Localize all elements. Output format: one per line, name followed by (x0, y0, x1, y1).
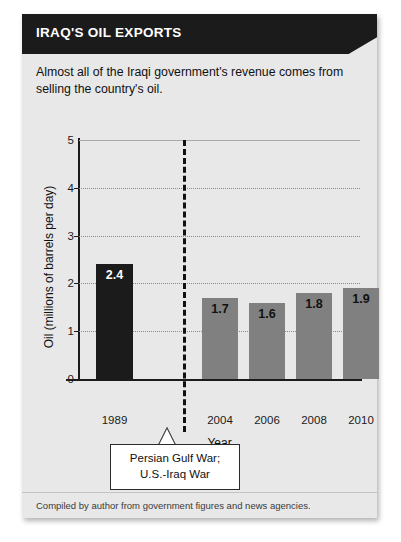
war-annotation-callout: Persian Gulf War; U.S.-Iraq War (110, 444, 240, 490)
x-axis-line (66, 379, 362, 381)
y-tick-label-4: 4 (52, 182, 74, 194)
page-title: IRAQ'S OIL EXPORTS (36, 25, 182, 40)
x-tick-label-2010: 2010 (331, 414, 391, 426)
gridline-4 (79, 188, 360, 189)
y-tick-label-2: 2 (52, 277, 74, 289)
bar-value-2004: 1.7 (202, 302, 238, 316)
x-tick-label-1989: 1989 (84, 414, 145, 426)
bar-2010: 1.9 (343, 288, 379, 379)
bar-2008: 1.8 (296, 293, 332, 379)
callout-line-2: U.S.-Iraq War (119, 467, 231, 483)
bar-chart: Oil (millions of barrels per day) 5 4 3 … (22, 110, 377, 440)
callout-pointer-icon (158, 427, 176, 445)
source-note: Compiled by author from government figur… (36, 500, 361, 511)
y-tick-label-5: 5 (52, 134, 74, 146)
bar-2006: 1.6 (249, 303, 285, 380)
bar-value-2008: 1.8 (296, 297, 332, 311)
gridline-3 (79, 236, 360, 237)
war-divider-dashed-line (183, 140, 186, 432)
callout-line-1: Persian Gulf War; (119, 451, 231, 467)
bar-2004: 1.7 (202, 298, 238, 379)
bar-value-2006: 1.6 (249, 307, 285, 321)
y-tick-label-1: 1 (52, 325, 74, 337)
y-tick-label-3: 3 (52, 230, 74, 242)
y-axis-tick-group: 5 4 3 2 1 0 (44, 110, 74, 440)
bar-value-2010: 1.9 (343, 292, 379, 306)
footer-divider (22, 492, 377, 493)
bar-1989: 2.4 (96, 264, 133, 379)
figure-deck-text: Almost all of the Iraqi government's rev… (36, 64, 361, 98)
gridline-5 (79, 140, 360, 141)
plot-area: 2.4 1.7 1.6 1.8 1.9 1989 2004 2006 2008 … (79, 140, 360, 379)
bar-value-1989: 2.4 (96, 268, 133, 282)
figure-panel: IRAQ'S OIL EXPORTS Almost all of the Ira… (22, 14, 377, 518)
